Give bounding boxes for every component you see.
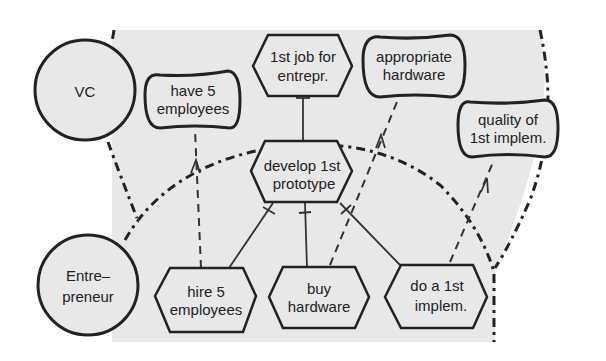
task-hire-label-1: hire 5 bbox=[187, 283, 225, 300]
softgoal-have-5-label-1: have 5 bbox=[170, 82, 215, 99]
task-develop-label-2: prototype bbox=[273, 175, 336, 192]
softgoal-appropriate-hardware[interactable]: appropriate hardware bbox=[363, 35, 465, 97]
task-do-a-1st-implem[interactable]: do a 1st implem. bbox=[385, 265, 487, 328]
actor-entrepreneur-label-1: Entre– bbox=[66, 267, 111, 284]
actor-vc-label: VC bbox=[75, 83, 96, 100]
softgoal-have-5-employees[interactable]: have 5 employees bbox=[145, 71, 240, 128]
task-1st-job-label-1: 1st job for bbox=[270, 48, 336, 65]
actor-vc[interactable]: VC bbox=[35, 40, 135, 140]
diagram-canvas: VC Entre– preneur have 5 employees appro… bbox=[0, 0, 606, 361]
task-hire-5-employees[interactable]: hire 5 employees bbox=[155, 268, 256, 332]
task-do-label-2: implem. bbox=[415, 297, 468, 314]
white-mask-bottom bbox=[0, 342, 606, 361]
softgoal-have-5-label-2: employees bbox=[157, 100, 230, 117]
task-buy-label-1: buy bbox=[307, 280, 332, 297]
task-develop-label-1: develop 1st bbox=[264, 157, 342, 174]
task-1st-job-label-2: entrepr. bbox=[278, 67, 329, 84]
actor-entrepreneur[interactable]: Entre– preneur bbox=[38, 235, 138, 335]
tick-2 bbox=[299, 212, 311, 213]
softgoal-quality-1st-implem[interactable]: quality of 1st implem. bbox=[458, 100, 558, 157]
task-do-label-1: do a 1st bbox=[410, 277, 464, 294]
softgoal-quality-label-1: quality of bbox=[478, 111, 539, 128]
task-1st-job-for-entrepr[interactable]: 1st job for entrepr. bbox=[253, 35, 352, 96]
task-buy-label-2: hardware bbox=[288, 298, 351, 315]
task-hire-label-2: employees bbox=[170, 301, 243, 318]
softgoal-hardware-label-2: hardware bbox=[383, 66, 446, 83]
task-buy-hardware[interactable]: buy hardware bbox=[269, 267, 369, 328]
actor-entrepreneur-label-2: preneur bbox=[62, 288, 114, 305]
softgoal-hardware-label-1: appropriate bbox=[376, 48, 452, 65]
softgoal-quality-label-2: 1st implem. bbox=[470, 129, 547, 146]
task-develop-1st-prototype[interactable]: develop 1st prototype bbox=[251, 141, 352, 202]
